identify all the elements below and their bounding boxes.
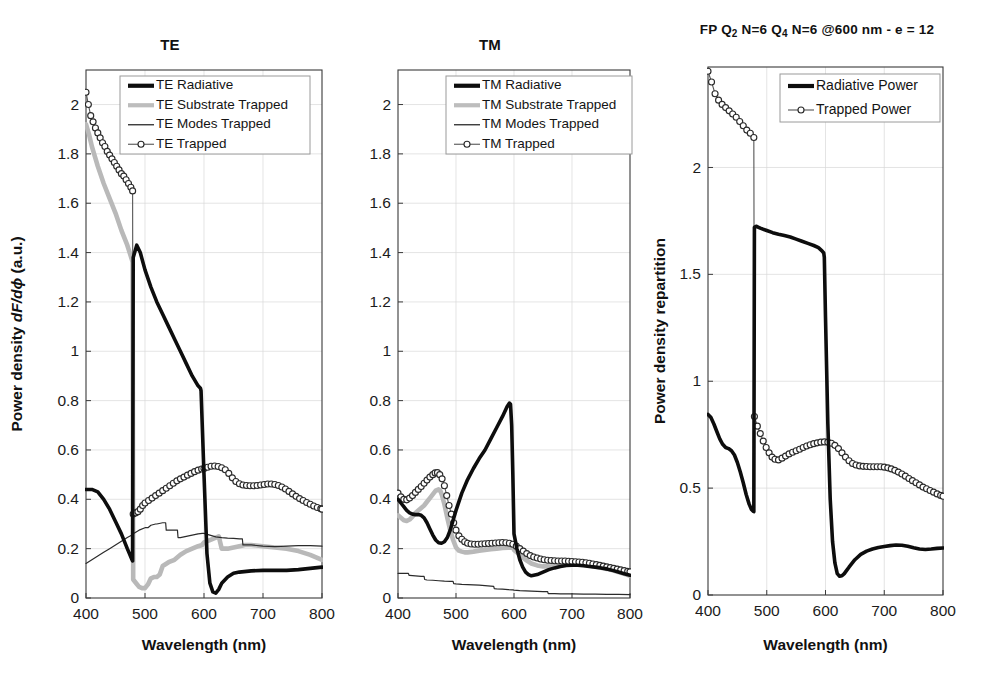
panel-te: TE 00.20.40.60.811.21.41.61.824005006007…: [0, 0, 340, 687]
y-tick-label: 0: [692, 586, 701, 603]
x-tick-label: 500: [443, 605, 469, 622]
data-marker: [444, 493, 450, 499]
y-tick-label: 1.4: [369, 244, 391, 261]
legend-label: TM Trapped: [482, 136, 555, 151]
y-tick-label: 1.2: [57, 293, 79, 310]
data-marker: [439, 476, 445, 482]
data-marker: [705, 68, 711, 74]
data-marker: [441, 483, 447, 489]
legend: TE RadiativeTE Substrate TrappedTE Modes…: [120, 76, 310, 154]
x-tick-label: 400: [695, 602, 721, 619]
legend-label: TM Radiative: [482, 77, 562, 92]
y-tick-label: 0.2: [57, 540, 79, 557]
legend-label: Radiative Power: [816, 77, 918, 93]
y-tick-label: 2: [382, 96, 391, 113]
y-tick-label: 1.8: [57, 145, 79, 162]
data-marker: [453, 527, 459, 533]
x-axis-title: Wavelength (nm): [763, 636, 887, 653]
y-tick-label: 1.6: [57, 194, 79, 211]
data-marker: [83, 89, 89, 95]
legend-label: Trapped Power: [816, 101, 912, 117]
y-tick-label: 1.2: [369, 293, 391, 310]
y-axis-title-suffix: (a.u.): [8, 236, 25, 277]
legend-label: TM Substrate Trapped: [482, 97, 616, 112]
legend-label: TE Substrate Trapped: [156, 97, 288, 112]
y-tick-label: 0.6: [369, 441, 391, 458]
x-tick-label: 700: [250, 605, 276, 622]
data-marker: [760, 438, 766, 444]
y-tick-label: 1: [382, 342, 391, 359]
x-tick-label: 600: [191, 605, 217, 622]
y-axis-title-prefix: Power density: [8, 322, 25, 431]
y-tick-label: 1: [692, 372, 701, 389]
y-tick-label: 0.8: [369, 392, 391, 409]
y-tick-label: 0.2: [369, 540, 391, 557]
y-axis-title-italic: dF/dϕ: [8, 277, 25, 322]
y-tick-label: 1.5: [679, 265, 701, 282]
panel-tm-plot: 00.20.40.60.811.21.41.61.824005006007008…: [330, 0, 650, 687]
x-tick-label: 500: [132, 605, 158, 622]
y-axis-title: Power density repartition: [651, 238, 668, 424]
legend: TM RadiativeTM Substrate TrappedTM Modes…: [446, 76, 632, 154]
legend-marker-icon: [798, 107, 804, 113]
y-tick-label: 1.6: [369, 194, 391, 211]
data-marker: [757, 431, 763, 437]
legend-marker-icon: [138, 141, 144, 147]
panel-fp-plot: 00.511.52400500600700800Wavelength (nm)P…: [645, 0, 989, 687]
y-tick-label: 0.4: [57, 490, 79, 507]
legend-label: TE Radiative: [156, 77, 233, 92]
x-tick-label: 500: [754, 602, 780, 619]
data-marker: [709, 79, 715, 85]
legend-label: TE Modes Trapped: [156, 116, 271, 131]
x-tick-label: 600: [813, 602, 839, 619]
y-axis-title: Power density dF/dϕ (a.u.): [8, 236, 25, 431]
x-tick-label: 800: [617, 605, 643, 622]
panel-fp: FP Q2 N=6 Q4 N=6 @600 nm - e = 12 00.511…: [645, 0, 989, 687]
x-tick-label: 600: [501, 605, 527, 622]
y-tick-label: 0.5: [679, 479, 701, 496]
data-marker: [751, 135, 757, 141]
y-tick-label: 1.8: [369, 145, 391, 162]
legend-label: TM Modes Trapped: [482, 116, 599, 131]
y-tick-label: 1: [70, 342, 79, 359]
legend: Radiative PowerTrapped Power: [780, 74, 940, 122]
x-tick-label: 400: [73, 605, 99, 622]
x-tick-label: 700: [559, 605, 585, 622]
panel-tm: TM 00.20.40.60.811.21.41.61.824005006007…: [330, 0, 650, 687]
y-tick-label: 0: [70, 589, 79, 606]
data-marker: [319, 506, 325, 512]
y-tick-label: 2: [70, 96, 79, 113]
x-axis-title: Wavelength (nm): [452, 636, 576, 653]
y-tick-label: 2: [692, 159, 701, 176]
y-tick-label: 1.4: [57, 244, 79, 261]
panel-te-plot: 00.20.40.60.811.21.41.61.824005006007008…: [0, 0, 340, 687]
y-tick-label: 0.4: [369, 490, 391, 507]
data-marker: [85, 102, 91, 108]
x-axis-title: Wavelength (nm): [142, 636, 266, 653]
y-tick-label: 0.8: [57, 392, 79, 409]
data-marker: [88, 113, 94, 119]
data-marker: [130, 188, 136, 194]
y-tick-label: 0.6: [57, 441, 79, 458]
data-marker: [940, 493, 946, 499]
y-tick-label: 0: [382, 589, 391, 606]
x-tick-label: 400: [385, 605, 411, 622]
data-marker: [90, 119, 96, 125]
data-marker: [446, 502, 452, 508]
legend-marker-icon: [464, 141, 470, 147]
legend-label: TE Trapped: [156, 136, 227, 151]
data-marker: [712, 91, 718, 97]
figure-three-panel-spectra: TE 00.20.40.60.811.21.41.61.824005006007…: [0, 0, 989, 687]
x-tick-label: 800: [930, 602, 956, 619]
x-tick-label: 700: [871, 602, 897, 619]
